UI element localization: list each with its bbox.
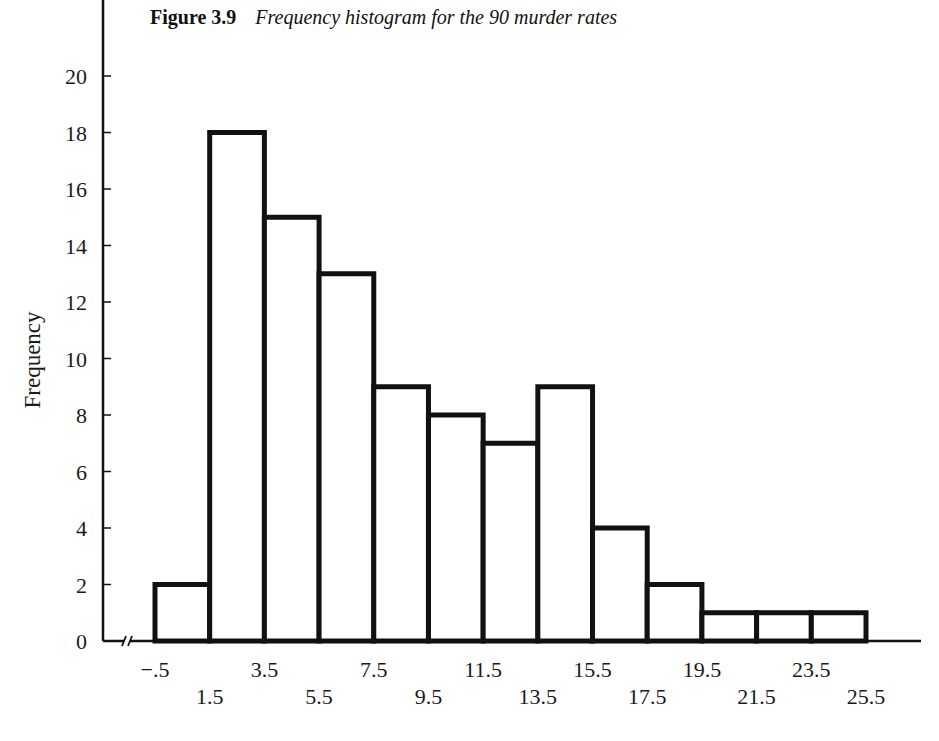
y-tick-label: 8 [76, 403, 87, 428]
y-tick-label: 10 [65, 347, 87, 372]
histogram-bar [319, 274, 374, 641]
y-tick-label: 2 [76, 573, 87, 598]
x-tick-label: 23.5 [792, 657, 831, 682]
x-tick-label: 21.5 [737, 684, 776, 709]
y-tick-label: 14 [65, 234, 87, 259]
x-tick-label: 19.5 [683, 657, 722, 682]
histogram-bar [210, 133, 265, 642]
x-tick-label: 1.5 [196, 684, 224, 709]
y-tick-label: 12 [65, 290, 87, 315]
axis-break-icon [122, 636, 132, 646]
x-tick-label: 5.5 [305, 684, 333, 709]
x-axis-ticks: −.53.57.511.515.519.523.51.55.59.513.517… [141, 657, 886, 709]
x-tick-label: 17.5 [628, 684, 667, 709]
x-tick-label: 25.5 [847, 684, 886, 709]
histogram-bar [155, 585, 210, 642]
histogram-bar [483, 443, 538, 641]
x-tick-label: 7.5 [360, 657, 388, 682]
histogram-bars [155, 133, 866, 642]
y-axis-label: Frequency [20, 311, 45, 409]
histogram-bar [538, 387, 593, 641]
x-tick-label: 11.5 [464, 657, 502, 682]
y-tick-label: 16 [65, 177, 87, 202]
x-tick-label: 13.5 [519, 684, 558, 709]
x-tick-label: −.5 [141, 657, 170, 682]
y-tick-label: 18 [65, 121, 87, 146]
y-tick-label: 4 [76, 516, 87, 541]
histogram-bar [428, 415, 483, 641]
x-tick-label: 15.5 [573, 657, 612, 682]
x-tick-label: 9.5 [415, 684, 443, 709]
histogram-bar [593, 528, 648, 641]
histogram-bar [757, 613, 812, 641]
y-tick-label: 20 [65, 64, 87, 89]
y-tick-label: 0 [76, 629, 87, 654]
histogram-bar [264, 217, 319, 641]
histogram-bar [374, 387, 429, 641]
y-tick-label: 6 [76, 460, 87, 485]
histogram-bar [702, 613, 757, 641]
histogram-bar [647, 585, 702, 642]
histogram-bar [811, 613, 866, 641]
x-tick-label: 3.5 [251, 657, 279, 682]
histogram-chart: 02468101214161820 −.53.57.511.515.519.52… [0, 0, 939, 741]
